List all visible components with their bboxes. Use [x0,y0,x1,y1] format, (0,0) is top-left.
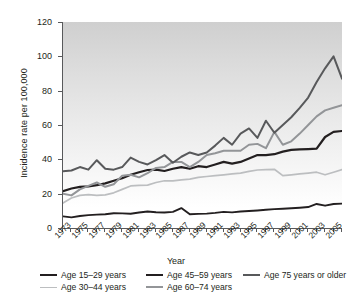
y-tick-label: 120 [37,18,52,27]
legend-label: Age 45–59 years [167,270,232,280]
y-tick-label: 20 [42,189,52,198]
legend-label: Age 75 years or older [264,270,346,280]
legend-label: Age 30–44 years [61,282,126,292]
legend-item[interactable]: Age 75 years or older [243,270,346,280]
legend-item[interactable]: Age 15–29 years [40,270,126,280]
y-tick-label: 80 [42,86,52,95]
legend-item[interactable]: Age 30–44 years [40,282,126,292]
legend-line-swatch [146,274,163,276]
x-axis-title: Year [0,256,352,266]
legend-line-swatch [243,274,260,276]
plot-lines [63,22,342,228]
legend-line-swatch [146,286,163,288]
chart-legend: Age 15–29 yearsAge 30–44 yearsAge 45–59 … [40,270,346,300]
y-tick-label: 100 [37,52,52,61]
legend-item[interactable]: Age 60–74 years [146,282,232,292]
series-line [63,204,342,218]
incidence-rate-line-chart: Incidence rate per 100,000 0204060801001… [0,0,352,304]
y-tick-label: 60 [42,121,52,130]
series-line [63,56,342,171]
y-axis-ticks: 020406080100120 [0,0,62,260]
legend-label: Age 60–74 years [167,282,232,292]
y-tick-label: 40 [42,155,52,164]
series-line [63,131,342,191]
legend-line-swatch [40,287,57,288]
legend-line-swatch [40,274,57,276]
legend-item[interactable]: Age 45–59 years [146,270,232,280]
legend-label: Age 15–29 years [61,270,126,280]
y-tick-label: 0 [47,224,52,233]
plot-area [62,22,342,229]
